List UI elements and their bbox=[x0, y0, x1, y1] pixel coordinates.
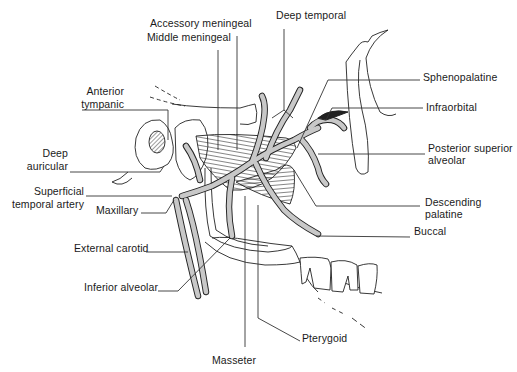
pterygoid-leader bbox=[258, 205, 300, 341]
label-sphenopalatine: Sphenopalatine bbox=[423, 72, 497, 84]
label-masseter: Masseter bbox=[212, 355, 256, 367]
buccal-leader bbox=[316, 236, 410, 237]
label-posterior-superior-alveolar-line1: Posterior superior bbox=[428, 143, 513, 155]
label-maxillary: Maxillary bbox=[96, 205, 138, 217]
label-middle-meningeal: Middle meningeal bbox=[147, 32, 231, 44]
label-inferior-alveolar: Inferior alveolar bbox=[84, 282, 158, 294]
label-descending-palatine-line1: Descending bbox=[425, 197, 481, 209]
label-anterior-tympanic-line1: Anterior bbox=[44, 86, 124, 98]
label-posterior-superior-alveolar-line2: alveolar bbox=[428, 155, 466, 167]
label-external-carotid: External carotid bbox=[74, 243, 149, 255]
label-deep-auricular-line1: Deep bbox=[30, 148, 68, 160]
label-anterior-tympanic-line2: tympanic bbox=[40, 99, 124, 111]
molar-teeth bbox=[300, 257, 377, 294]
deep-temporal-leader bbox=[272, 29, 284, 118]
label-superficial-temporal-artery-line1: Superficial bbox=[30, 186, 84, 198]
label-superficial-temporal-artery-line2: temporal artery bbox=[10, 199, 84, 211]
label-buccal: Buccal bbox=[414, 226, 446, 238]
label-deep-temporal: Deep temporal bbox=[276, 10, 346, 22]
label-pterygoid: Pterygoid bbox=[302, 333, 347, 345]
label-accessory-meningeal: Accessory meningeal bbox=[150, 18, 252, 30]
descending-palatine-leader bbox=[294, 170, 420, 206]
tympanic-region bbox=[149, 131, 165, 153]
label-infraorbital: Infraorbital bbox=[426, 102, 477, 114]
maxillary-leader bbox=[141, 200, 174, 213]
label-descending-palatine-line2: palatine bbox=[425, 209, 463, 221]
label-deep-auricular-line2: auricular bbox=[22, 161, 68, 173]
